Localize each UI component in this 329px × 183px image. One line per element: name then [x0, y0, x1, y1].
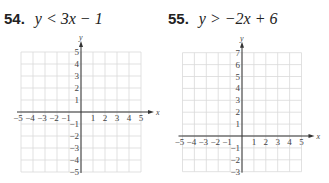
y-tick-label: 6 — [236, 60, 241, 70]
y-tick-label: −1 — [69, 119, 79, 129]
y-tick-label: 4 — [236, 83, 241, 93]
y-tick-label: 5 — [236, 72, 241, 82]
x-axis-arrow-icon — [148, 110, 154, 114]
y-tick-label: 1 — [75, 95, 80, 105]
y-tick-label: −5 — [69, 167, 79, 177]
coordinate-grids: xy−5−4−3−2−11234554321−1−2−3−4−5xy−5−4−3… — [0, 0, 329, 183]
y-tick-label: −1 — [230, 143, 240, 153]
y-axis-label: y — [78, 33, 83, 42]
x-tick-label: 1 — [252, 137, 257, 147]
x-axis-label: x — [155, 108, 160, 117]
x-tick-label: −3 — [199, 137, 209, 147]
y-tick-label: 5 — [75, 47, 80, 57]
y-tick-label: −3 — [230, 167, 240, 177]
x-tick-label: −2 — [49, 113, 59, 123]
x-tick-label: 3 — [275, 137, 280, 147]
y-tick-label: 1 — [236, 119, 241, 129]
x-tick-label: 5 — [299, 137, 304, 147]
x-tick-label: 1 — [91, 113, 96, 123]
x-tick-label: 5 — [139, 113, 144, 123]
y-tick-label: 2 — [236, 107, 241, 117]
y-tick-label: 3 — [236, 95, 241, 105]
x-axis-label: x — [316, 132, 321, 141]
y-tick-label: 4 — [75, 59, 80, 69]
y-tick-label: 2 — [75, 83, 80, 93]
x-tick-label: 2 — [103, 113, 108, 123]
y-tick-label: 3 — [75, 71, 80, 81]
x-tick-label: −5 — [175, 137, 185, 147]
y-tick-label: −2 — [230, 155, 240, 165]
y-tick-label: −3 — [69, 143, 79, 153]
x-tick-label: −4 — [187, 137, 197, 147]
x-tick-label: −4 — [25, 113, 35, 123]
x-tick-label: −5 — [13, 113, 23, 123]
y-tick-label: −2 — [69, 131, 79, 141]
x-tick-label: −2 — [210, 137, 220, 147]
y-axis-label: y — [239, 34, 244, 43]
y-tick-label: −4 — [69, 155, 79, 165]
x-tick-label: 4 — [287, 137, 292, 147]
x-tick-label: −3 — [37, 113, 47, 123]
graph-55: xy−5−4−3−2−1123457654321−1−2−3 — [175, 34, 321, 177]
x-tick-label: 4 — [127, 113, 132, 123]
graph-54: xy−5−4−3−2−11234554321−1−2−3−4−5 — [13, 33, 160, 177]
x-tick-label: 2 — [264, 137, 269, 147]
x-tick-label: 3 — [115, 113, 120, 123]
x-axis-arrow-icon — [309, 134, 315, 138]
y-tick-label: 7 — [236, 48, 241, 58]
